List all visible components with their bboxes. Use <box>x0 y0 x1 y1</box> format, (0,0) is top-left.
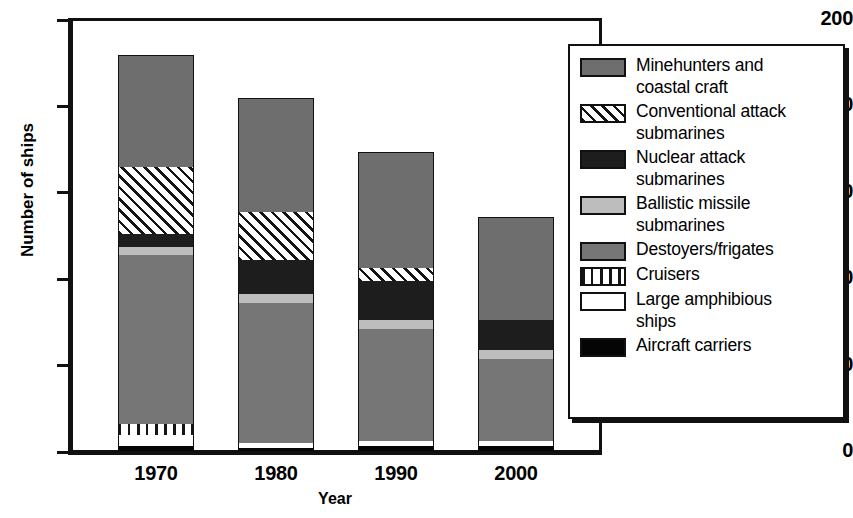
segment-minehunters-1980 <box>238 98 314 212</box>
segment-ballistic-1990 <box>358 320 434 329</box>
x-tick-label-1980: 1980 <box>226 462 326 485</box>
segment-destroyers-2000 <box>478 359 554 441</box>
legend-label-nuclear: Nuclear attack submarines <box>636 146 745 190</box>
bar-1970 <box>118 0 194 455</box>
segment-ballistic-1980 <box>238 294 314 303</box>
legend-swatch-ballistic-icon <box>580 196 626 215</box>
segment-ballistic-1970 <box>118 247 194 256</box>
segment-carriers-1980 <box>238 448 314 452</box>
y-axis-title: Number of ships <box>18 105 38 275</box>
bar-1990 <box>358 0 434 455</box>
legend-label-carriers: Aircraft carriers <box>636 334 751 357</box>
legend-label-destroyers: Destoyers/frigates <box>636 238 773 261</box>
x-axis-title: Year <box>68 490 602 508</box>
segment-amphibious-1990 <box>358 441 434 445</box>
y-tick-160 <box>57 105 70 108</box>
legend-label-conventional: Conventional attack submarines <box>636 100 786 144</box>
segment-nuclear-2000 <box>478 320 554 350</box>
legend-swatch-minehunters-icon <box>580 58 626 77</box>
chart-legend: Minehunters and coastal craftConventiona… <box>568 44 845 419</box>
legend-swatch-cruisers-icon <box>580 267 626 286</box>
segment-amphibious-1980 <box>238 443 314 447</box>
legend-item-conventional: Conventional attack submarines <box>580 100 843 144</box>
legend-label-minehunters: Minehunters and coastal craft <box>636 54 763 98</box>
legend-label-ballistic: Ballistic missile submarines <box>636 192 750 236</box>
x-tick-label-1970: 1970 <box>106 462 206 485</box>
legend-label-amphibious: Large amphibious ships <box>636 288 772 332</box>
y-tick-label-200: 200 <box>801 7 853 30</box>
segment-amphibious-1970 <box>118 435 194 446</box>
y-tick-80 <box>57 278 70 281</box>
legend-item-destroyers: Destoyers/frigates <box>580 238 843 261</box>
segment-minehunters-2000 <box>478 217 554 321</box>
chart-figure: 04080120160200 Number of ships 197019801… <box>0 0 853 518</box>
y-axis-line <box>68 18 73 454</box>
legend-swatch-amphibious-icon <box>580 292 626 311</box>
segment-nuclear-1980 <box>238 260 314 295</box>
segment-destroyers-1990 <box>358 329 434 441</box>
x-tick-label-1990: 1990 <box>346 462 446 485</box>
legend-item-ballistic: Ballistic missile submarines <box>580 192 843 236</box>
legend-item-carriers: Aircraft carriers <box>580 334 843 357</box>
y-tick-0 <box>57 451 70 454</box>
segment-ballistic-2000 <box>478 350 554 359</box>
y-tick-120 <box>57 191 70 194</box>
segment-amphibious-2000 <box>478 441 554 445</box>
legend-swatch-destroyers-icon <box>580 242 626 261</box>
segment-minehunters-1970 <box>118 55 194 167</box>
legend-swatch-nuclear-icon <box>580 150 626 169</box>
segment-carriers-1970 <box>118 446 194 452</box>
segment-conventional-1980 <box>238 212 314 260</box>
legend-swatch-carriers-icon <box>580 338 626 357</box>
segment-carriers-1990 <box>358 446 434 452</box>
bar-2000 <box>478 0 554 455</box>
segment-nuclear-1970 <box>118 234 194 247</box>
segment-destroyers-1970 <box>118 255 194 423</box>
legend-item-amphibious: Large amphibious ships <box>580 288 843 332</box>
y-tick-label-0: 0 <box>801 439 853 462</box>
y-tick-200 <box>57 19 70 22</box>
legend-swatch-conventional-icon <box>580 104 626 123</box>
legend-item-minehunters: Minehunters and coastal craft <box>580 54 843 98</box>
segment-destroyers-1980 <box>238 303 314 443</box>
segment-minehunters-1990 <box>358 152 434 269</box>
segment-carriers-2000 <box>478 446 554 452</box>
x-tick-label-2000: 2000 <box>466 462 566 485</box>
bar-1980 <box>238 0 314 455</box>
segment-nuclear-1990 <box>358 281 434 320</box>
segment-cruisers-1970 <box>118 424 194 435</box>
legend-item-nuclear: Nuclear attack submarines <box>580 146 843 190</box>
legend-item-cruisers: Cruisers <box>580 263 843 286</box>
segment-conventional-1970 <box>118 167 194 234</box>
segment-conventional-1990 <box>358 268 434 281</box>
y-tick-40 <box>57 364 70 367</box>
legend-label-cruisers: Cruisers <box>636 263 700 286</box>
